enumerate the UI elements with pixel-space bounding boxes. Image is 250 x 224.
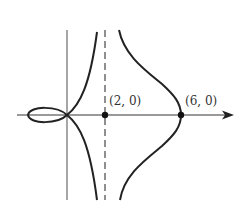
curve-left-upper-branch xyxy=(67,32,97,115)
curve-left-lower-branch xyxy=(67,115,97,200)
point-2-0-marker xyxy=(102,112,108,118)
curve-diagram: (2, 0) (6, 0) xyxy=(0,0,250,224)
diagram-canvas: (2, 0) (6, 0) xyxy=(0,0,250,224)
point-2-0-label: (2, 0) xyxy=(109,94,141,108)
curve-right-lower-branch xyxy=(120,115,181,200)
point-6-0-label: (6, 0) xyxy=(185,94,217,108)
point-6-0-marker xyxy=(178,112,184,118)
